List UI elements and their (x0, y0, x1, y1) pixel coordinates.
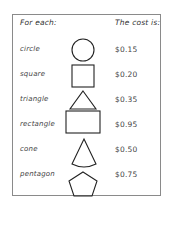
triangle-icon (70, 91, 96, 109)
rectangle-icon (66, 111, 100, 133)
pentagon-icon (69, 172, 97, 196)
cone-icon (72, 139, 96, 167)
circle-icon (72, 39, 94, 61)
square-icon (72, 65, 94, 87)
